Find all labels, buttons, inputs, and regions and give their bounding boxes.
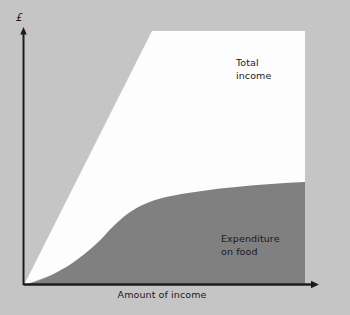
income-expenditure-chart: £ Total income Expenditure on food Amoun… (0, 0, 350, 315)
y-axis-arrowhead (20, 27, 27, 35)
chart-plot-area (0, 0, 350, 315)
x-axis-arrowhead (311, 281, 319, 288)
